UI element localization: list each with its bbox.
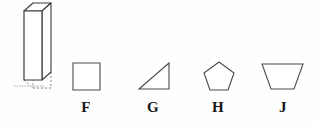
choice-label-g: G xyxy=(141,100,165,115)
pentagon-shape-h xyxy=(204,62,234,90)
rectangular-prism xyxy=(14,3,51,88)
triangle-shape-g xyxy=(139,63,169,89)
choice-label-j: J xyxy=(271,100,295,115)
trapezoid-shape-j xyxy=(262,64,303,89)
prism-side-face xyxy=(42,3,51,80)
choice-label-f: F xyxy=(74,100,98,115)
prism-front-face xyxy=(24,11,42,80)
geometry-figure: F G H J xyxy=(0,0,317,126)
choice-label-h: H xyxy=(206,100,230,115)
square-shape-f xyxy=(73,63,100,90)
